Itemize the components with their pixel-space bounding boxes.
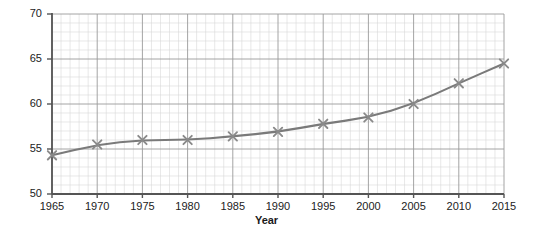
y-axis-tick-label: 50 <box>16 188 42 199</box>
y-axis-tick-label: 55 <box>16 143 42 154</box>
x-axis-tick-label: 1995 <box>303 201 343 212</box>
population-line-chart: Population (millions) Year 5055606570196… <box>0 0 533 236</box>
x-axis-tick-label: 1975 <box>122 201 162 212</box>
x-axis-tick-label: 2015 <box>484 201 524 212</box>
x-axis-tick-label: 2010 <box>439 201 479 212</box>
x-axis-tick-label: 1990 <box>258 201 298 212</box>
x-axis-title: Year <box>0 214 533 226</box>
x-axis-tick-label: 1970 <box>77 201 117 212</box>
y-axis-tick-label: 70 <box>16 8 42 19</box>
y-axis-tick-label: 65 <box>16 53 42 64</box>
x-axis-tick-label: 1985 <box>213 201 253 212</box>
x-axis-tick-label: 2005 <box>394 201 434 212</box>
y-axis-tick-label: 60 <box>16 98 42 109</box>
x-axis-tick-label: 2000 <box>348 201 388 212</box>
x-axis-tick-label: 1965 <box>32 201 72 212</box>
x-axis-tick-label: 1980 <box>168 201 208 212</box>
